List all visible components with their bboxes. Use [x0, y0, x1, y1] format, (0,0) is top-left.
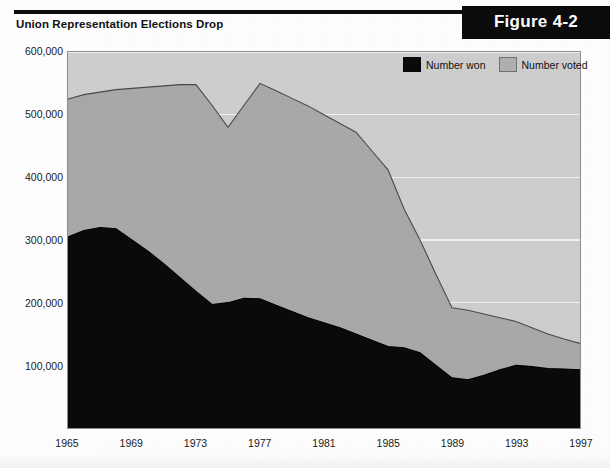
x-axis-tick-label: 1993 — [505, 437, 528, 449]
x-axis-tick-label: 1977 — [248, 437, 271, 449]
x-axis-tick-label: 1973 — [184, 437, 207, 449]
legend-label-number-won: Number won — [426, 59, 486, 71]
legend-item-number-voted: Number voted — [499, 57, 588, 72]
x-axis-tick-label: 1989 — [441, 437, 464, 449]
chart-legend: Number won Number voted — [403, 57, 587, 72]
x-axis-tick-label: 1997 — [569, 437, 592, 449]
figure-page: Union Representation Elections Drop Figu… — [0, 0, 610, 468]
legend-swatch-icon-number-won — [403, 57, 421, 72]
legend-swatch-icon-number-voted — [499, 57, 517, 72]
x-axis-tick-label: 1981 — [312, 437, 335, 449]
x-axis-tick-label: 1985 — [377, 437, 400, 449]
legend-label-number-voted: Number voted — [522, 59, 588, 71]
legend-item-number-won: Number won — [403, 57, 486, 72]
x-axis-tick-label: 1969 — [120, 437, 143, 449]
x-axis-tick-label: 1965 — [55, 437, 78, 449]
